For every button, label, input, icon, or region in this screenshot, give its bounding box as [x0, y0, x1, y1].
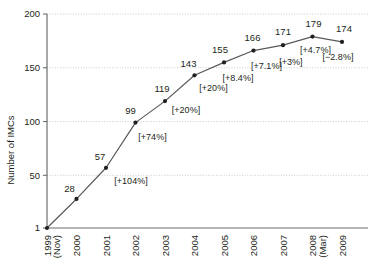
y-axis-ticks: 150100150200 [24, 8, 47, 233]
value-label-2009: 174 [336, 23, 352, 34]
data-point-2005 [222, 60, 226, 64]
growth-label-2007: [+3%] [279, 57, 302, 67]
x-tick-label-group-10: 2009 [337, 235, 348, 256]
x-tick-label-2: 2001 [101, 235, 112, 256]
x-tick-label-5: 2004 [189, 235, 200, 256]
y-tick-label-50: 50 [29, 170, 40, 181]
x-tick-label-group-9: 2008(Mar) [307, 235, 328, 258]
data-point-2003 [163, 99, 167, 103]
x-tick-label-group-1: 2000 [71, 235, 82, 256]
value-label-2008-mar-: 179 [306, 18, 322, 29]
value-label-2001: 57 [95, 151, 106, 162]
data-point-2002 [133, 121, 137, 125]
value-label-2002: 99 [125, 105, 136, 116]
x-tick-sublabel-0: (Nov) [51, 235, 62, 258]
x-tick-label-group-2: 2001 [101, 235, 112, 256]
data-point-2001 [104, 166, 108, 170]
y-axis-title: Number of IMCs [5, 115, 16, 184]
growth-label-2004: [+20%] [199, 83, 227, 93]
x-tick-label-10: 2009 [337, 235, 348, 256]
data-point-2000 [74, 197, 78, 201]
value-label-2003: 119 [154, 83, 169, 94]
growth-label-2009: [−2.8%] [323, 52, 354, 62]
growth-label-2001: [+104%] [114, 176, 147, 186]
x-tick-label-1: 2000 [71, 235, 82, 256]
x-tick-label-7: 2006 [248, 235, 259, 256]
y-tick-label-1: 1 [35, 222, 40, 233]
x-tick-label-group-7: 2006 [248, 235, 259, 256]
growth-label-2005: [+8.4%] [223, 73, 254, 83]
x-tick-sublabel-9: (Mar) [317, 235, 328, 258]
growth-label-2006: [+7.1%] [251, 61, 282, 71]
chart-canvas: 150100150200 1999(Nov)200020012002200320… [0, 0, 375, 272]
growth-label-2003: [+20%] [172, 105, 200, 115]
x-tick-label-3: 2002 [130, 235, 141, 256]
x-tick-label-4: 2003 [160, 235, 171, 256]
y-tick-label-100: 100 [24, 116, 40, 127]
value-label-2006: 166 [245, 32, 261, 43]
x-tick-label-group-0: 1999(Nov) [42, 235, 63, 258]
x-tick-label-group-3: 2002 [130, 235, 141, 256]
data-point-2008-mar- [310, 34, 314, 38]
y-tick-label-200: 200 [24, 8, 40, 19]
growth-label-2002: [+74%] [138, 132, 166, 142]
x-axis-ticks: 1999(Nov)2000200120022003200420052006200… [42, 235, 348, 258]
data-point-2009 [340, 40, 344, 44]
data-point-2006 [251, 48, 255, 52]
data-point-1999-nov- [45, 226, 49, 230]
value-label-2007: 171 [275, 26, 291, 37]
line-chart: 150100150200 1999(Nov)200020012002200320… [0, 0, 375, 272]
value-label-2005: 155 [212, 44, 228, 55]
x-tick-label-8: 2007 [278, 235, 289, 256]
x-tick-label-6: 2005 [219, 235, 230, 256]
x-tick-label-group-4: 2003 [160, 235, 171, 256]
data-point-2007 [281, 43, 285, 47]
x-tick-label-group-5: 2004 [189, 235, 200, 256]
growth-annotations: [+104%][+74%][+20%][+20%][+8.4%][+7.1%][… [114, 45, 353, 186]
y-tick-label-150: 150 [24, 62, 40, 73]
x-tick-label-group-6: 2005 [219, 235, 230, 256]
data-point-2004 [192, 73, 196, 77]
x-tick-label-group-8: 2007 [278, 235, 289, 256]
value-label-2004: 143 [181, 58, 197, 69]
value-label-2000: 28 [64, 183, 75, 194]
